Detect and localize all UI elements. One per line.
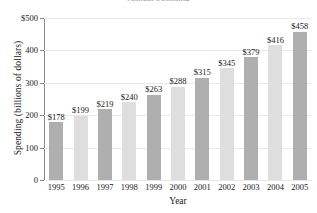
bar[interactable]: $288 [171, 87, 185, 180]
bar-value-label: $199 [72, 106, 89, 115]
y-tick-mark [40, 180, 44, 181]
bar-slot: $2401998 [122, 18, 136, 180]
gridline [44, 180, 312, 181]
y-tick-mark [40, 115, 44, 116]
plot-area: 0100200300400$500 $1781995$1991996$21919… [44, 18, 312, 180]
bar-slot: $2631999 [147, 18, 161, 180]
x-tick-label: 2003 [243, 183, 260, 192]
y-tick-mark [40, 50, 44, 51]
x-axis-label: Year [44, 196, 312, 206]
y-axis-label: Spending (billions of dollars) [13, 18, 23, 178]
y-tick-mark [40, 148, 44, 149]
bar-value-label: $219 [96, 100, 113, 109]
x-tick-label: 1997 [96, 183, 113, 192]
bar-value-label: $416 [267, 36, 284, 45]
y-tick-label: 200 [25, 111, 38, 120]
bar-slot: $4582005 [293, 18, 307, 180]
bar[interactable]: $219 [98, 109, 112, 180]
bar[interactable]: $199 [74, 116, 88, 180]
bar[interactable]: $240 [122, 102, 136, 180]
bar[interactable]: $458 [293, 32, 307, 180]
y-tick-label: $500 [21, 14, 38, 23]
bar-slot: $2191997 [98, 18, 112, 180]
y-axis-line [44, 18, 45, 181]
bar-slot: $1781995 [49, 18, 63, 180]
x-tick-label: 2004 [267, 183, 284, 192]
bar-value-label: $345 [218, 59, 235, 68]
bar-slot: $3452002 [220, 18, 234, 180]
y-tick-label: 300 [25, 79, 38, 88]
bar-slot: $3152001 [195, 18, 209, 180]
chart-title: Annual Spending [0, 0, 317, 1]
y-tick-label: 100 [25, 143, 38, 152]
bar-value-label: $263 [145, 85, 162, 94]
bar[interactable]: $345 [220, 68, 234, 180]
bar-value-label: $379 [243, 48, 260, 57]
bar-value-label: $288 [170, 77, 187, 86]
y-tick-mark [40, 83, 44, 84]
bar[interactable]: $178 [49, 122, 63, 180]
x-tick-label: 2001 [194, 183, 211, 192]
x-tick-label: 1995 [48, 183, 65, 192]
bar[interactable]: $315 [195, 78, 209, 180]
bar-value-label: $240 [121, 93, 138, 102]
x-tick-label: 2005 [291, 183, 308, 192]
x-tick-label: 1996 [72, 183, 89, 192]
bar-slot: $4162004 [268, 18, 282, 180]
bar-value-label: $178 [48, 113, 65, 122]
y-tick-label: 400 [25, 46, 38, 55]
bar-slot: $3792003 [244, 18, 258, 180]
bar-slot: $2882000 [171, 18, 185, 180]
x-tick-label: 1998 [121, 183, 138, 192]
x-tick-label: 1999 [145, 183, 162, 192]
y-tick-label: 0 [34, 176, 38, 185]
x-tick-label: 2002 [218, 183, 235, 192]
bar-value-label: $315 [194, 68, 211, 77]
bar-value-label: $458 [291, 22, 308, 31]
bar-chart: Annual Spending Spending (billions of do… [0, 0, 317, 213]
bar-slot: $1991996 [74, 18, 88, 180]
x-tick-label: 2000 [170, 183, 187, 192]
bar[interactable]: $263 [147, 95, 161, 180]
y-tick-mark [40, 18, 44, 19]
bar[interactable]: $379 [244, 57, 258, 180]
bar[interactable]: $416 [268, 45, 282, 180]
